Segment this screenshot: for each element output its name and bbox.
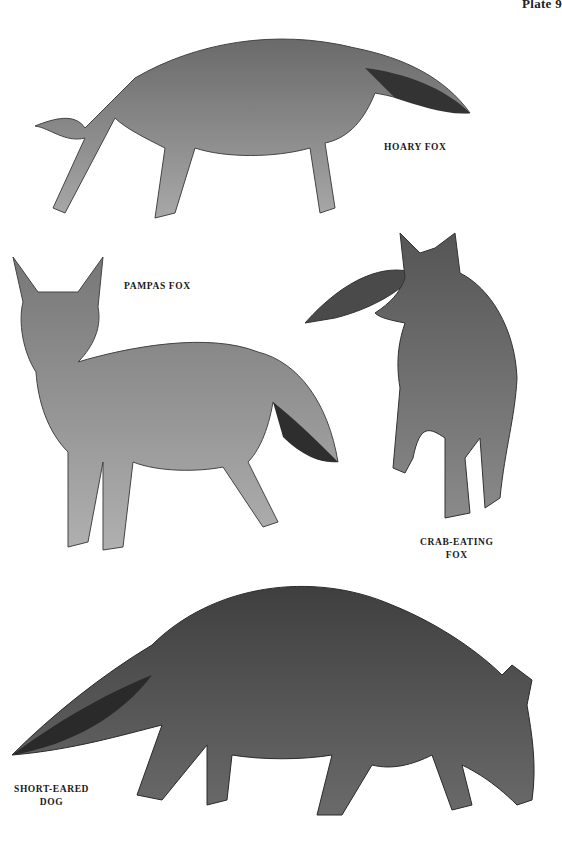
hoary-fox-label: HOARY FOX [384,141,447,154]
crab-eating-fox-illustration [305,228,525,523]
pampas-fox-illustration [8,252,343,557]
short-eared-dog-illustration [12,565,537,820]
crab-eating-fox-label: CRAB-EATING FOX [420,536,493,562]
plate-header: Plate 9 [522,0,562,12]
pampas-fox-label: PAMPAS FOX [124,280,191,293]
short-eared-dog-label: SHORT-EARED DOG [14,783,89,809]
hoary-fox-illustration [25,18,475,223]
